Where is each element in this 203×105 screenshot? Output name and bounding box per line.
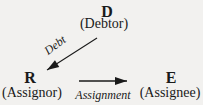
node-debtor-label: (Debtor) xyxy=(80,17,128,31)
node-assignee-label: (Assignee) xyxy=(140,86,201,100)
node-assignor-letter: R xyxy=(24,70,36,86)
node-assignee-letter: E xyxy=(166,70,177,86)
assignment-diagram: D (Debtor) R (Assignor) E (Assignee) Deb… xyxy=(0,0,203,105)
edge-assignment-label: Assignment xyxy=(75,89,130,101)
node-assignor-label: (Assignor) xyxy=(2,86,62,100)
